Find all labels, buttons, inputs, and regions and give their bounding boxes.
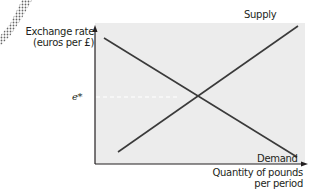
demand-label: Demand xyxy=(257,153,298,164)
x-axis-label-line2: per period xyxy=(185,178,303,189)
y-axis-label-line2: (euros per £) xyxy=(22,37,94,48)
y-axis-label-line1: Exchange rate xyxy=(22,26,94,37)
supply-label: Supply xyxy=(244,9,276,20)
x-axis-label-line1: Quantity of pounds xyxy=(185,167,303,178)
equilibrium-rate-label: e* xyxy=(72,91,82,102)
y-axis-label: Exchange rate (euros per £) xyxy=(22,26,94,48)
x-axis-label: Quantity of pounds per period xyxy=(185,167,303,189)
